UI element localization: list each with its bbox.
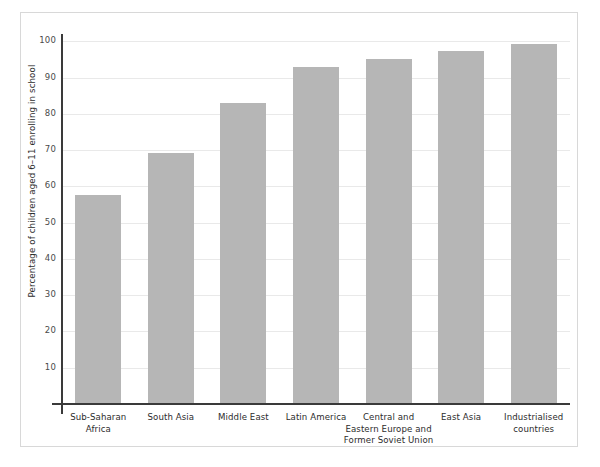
chart-figure: 102030405060708090100 Sub-SaharanAfricaS… <box>0 0 600 467</box>
x-tick-label-line: Former Soviet Union <box>341 435 437 447</box>
bar <box>438 51 484 404</box>
bar <box>148 153 194 404</box>
bar <box>366 59 412 404</box>
y-tick-label: 10 <box>28 362 56 372</box>
x-tick-label-line: Industrialised <box>486 412 582 424</box>
bar <box>220 103 266 404</box>
x-tick-label-line: Africa <box>50 424 146 436</box>
y-tick-label: 100 <box>28 35 56 45</box>
bars-group <box>62 34 570 404</box>
x-tick-label-line: Eastern Europe and <box>341 424 437 436</box>
y-axis-line <box>61 34 63 406</box>
bar <box>75 195 121 404</box>
y-tick-label: 20 <box>28 325 56 335</box>
bar <box>511 44 557 404</box>
x-axis-line <box>52 403 570 405</box>
x-tick-label: Industrialisedcountries <box>486 412 582 435</box>
x-tick-label-line: countries <box>486 424 582 436</box>
bar <box>293 67 339 404</box>
y-axis-title: Percentage of children aged 6–11 enrolli… <box>27 61 37 301</box>
